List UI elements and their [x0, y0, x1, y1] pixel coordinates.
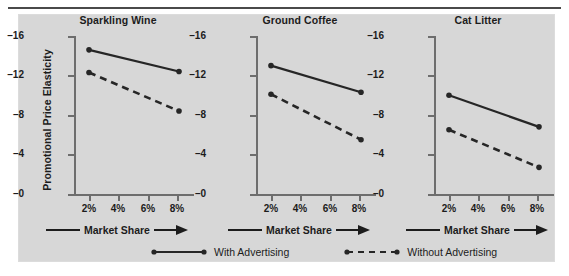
series-line: [449, 95, 539, 127]
x-axis-caption-label: Market Share: [444, 224, 510, 236]
data-point-marker: [446, 92, 452, 98]
data-point-marker: [86, 47, 92, 53]
y-tick-label: –16: [166, 30, 206, 41]
panel-cat-litter: Cat Litter –16 –12 –8 –4 –0 2% 4% 6% 8%: [388, 14, 568, 229]
y-tick-label: –8: [344, 109, 384, 120]
line-segment-icon: [228, 225, 262, 235]
legend-label: With Advertising: [214, 246, 289, 258]
line-segment-icon: [406, 225, 440, 235]
data-point-marker: [268, 91, 274, 97]
legend: With Advertising Without Advertising: [150, 243, 550, 261]
dashed-line-swatch-icon: [343, 247, 401, 257]
y-tick-label: –0: [166, 188, 206, 199]
y-tick-label: –0: [0, 188, 24, 199]
y-tick-label: –8: [166, 109, 206, 120]
y-tick-label: –0: [344, 188, 384, 199]
arrow-right-icon: [336, 225, 370, 235]
x-axis-caption-label: Market Share: [266, 224, 332, 236]
data-point-marker: [358, 89, 364, 95]
arrow-right-icon: [154, 225, 188, 235]
line-segment-icon: [46, 225, 80, 235]
legend-item-without-advertising: Without Advertising: [343, 246, 497, 258]
data-point-marker: [536, 124, 542, 130]
y-tick-label: –4: [344, 148, 384, 159]
y-tick-label: –16: [344, 30, 384, 41]
series-layer: [388, 14, 568, 229]
solid-line-swatch-icon: [150, 247, 208, 257]
y-tick-label: –12: [0, 69, 24, 80]
y-tick-label: –16: [0, 30, 24, 41]
legend-label: Without Advertising: [407, 246, 497, 258]
x-axis-caption-cat-litter: Market Share: [406, 222, 548, 238]
top-rule-divider: [8, 7, 561, 9]
y-tick-label: –4: [166, 148, 206, 159]
figure-root: Promotional Price Elasticity Sparkling W…: [0, 0, 569, 276]
series-line: [449, 130, 539, 168]
y-tick-label: –4: [0, 148, 24, 159]
y-tick-label: –12: [344, 69, 384, 80]
x-axis-caption-sparkling-wine: Market Share: [46, 222, 188, 238]
legend-item-with-advertising: With Advertising: [150, 246, 289, 258]
data-point-marker: [446, 127, 452, 133]
data-point-marker: [536, 165, 542, 171]
arrow-right-icon: [514, 225, 548, 235]
x-axis-caption-label: Market Share: [84, 224, 150, 236]
y-tick-label: –12: [166, 69, 206, 80]
data-point-marker: [86, 70, 92, 76]
data-point-marker: [358, 137, 364, 143]
data-point-marker: [268, 63, 274, 69]
y-tick-label: –8: [0, 109, 24, 120]
x-axis-caption-ground-coffee: Market Share: [228, 222, 370, 238]
